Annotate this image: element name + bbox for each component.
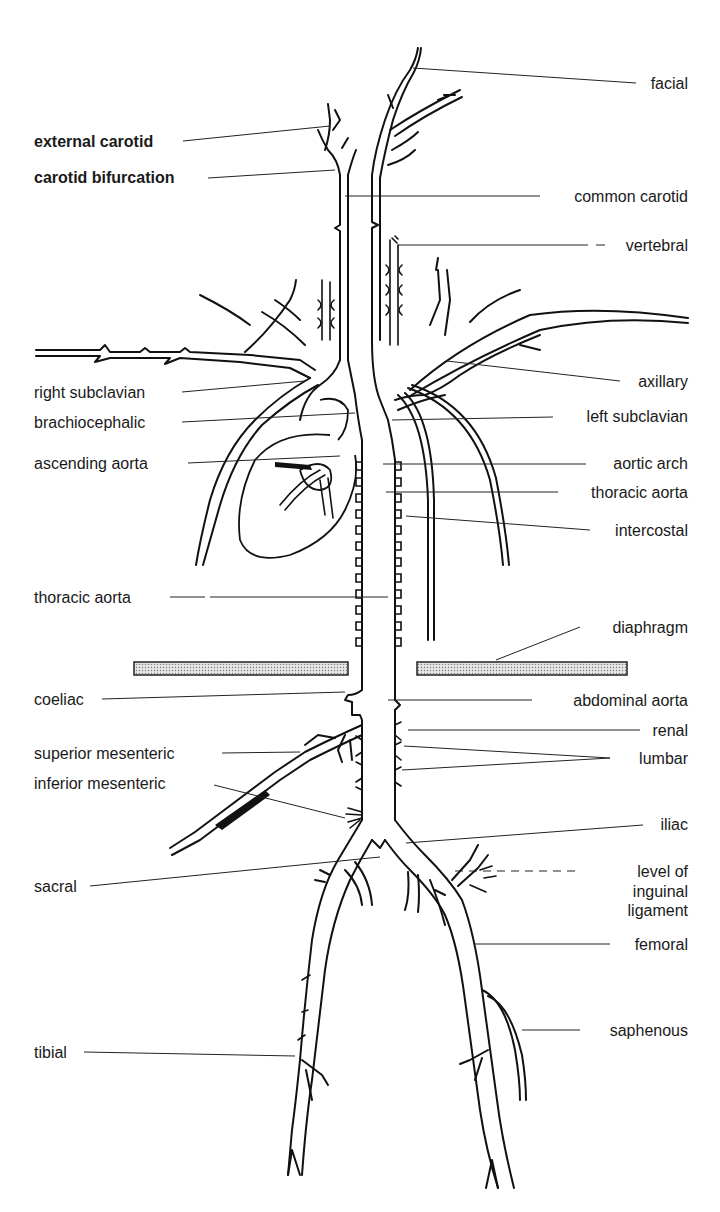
label-aortic-arch: aortic arch <box>613 455 688 472</box>
label-femoral: femoral <box>635 936 688 953</box>
label-coeliac: coeliac <box>34 691 84 708</box>
label-renal: renal <box>652 722 688 739</box>
labels-right: facial common carotid vertebral axillary… <box>573 75 688 1039</box>
label-common-carotid: common carotid <box>574 188 688 205</box>
label-right-subclavian: right subclavian <box>34 384 145 401</box>
label-tibial: tibial <box>34 1044 67 1061</box>
label-inferior-mesenteric: inferior mesenteric <box>34 775 166 792</box>
diaphragm-right <box>417 662 627 675</box>
label-left-subclavian: left subclavian <box>587 408 688 425</box>
label-carotid-bifurcation: carotid bifurcation <box>34 169 174 186</box>
label-iliac: iliac <box>660 816 688 833</box>
label-intercostal: intercostal <box>615 522 688 539</box>
arterial-system-diagram: external carotid carotid bifurcation rig… <box>0 0 720 1212</box>
label-sacral: sacral <box>34 878 77 895</box>
label-ascending-aorta: ascending aorta <box>34 455 148 472</box>
label-inguinal-line1: level of <box>637 863 688 880</box>
diaphragm-left <box>134 662 348 675</box>
label-thoracic-aorta-right: thoracic aorta <box>591 484 688 501</box>
labels-left: external carotid carotid bifurcation rig… <box>34 133 175 1061</box>
label-brachiocephalic: brachiocephalic <box>34 414 145 431</box>
label-saphenous: saphenous <box>610 1022 688 1039</box>
label-diaphragm: diaphragm <box>612 619 688 636</box>
label-external-carotid: external carotid <box>34 133 153 150</box>
label-thoracic-aorta-left: thoracic aorta <box>34 589 131 606</box>
label-vertebral: vertebral <box>626 237 688 254</box>
leader-lines <box>84 68 643 1056</box>
label-superior-mesenteric: superior mesenteric <box>34 745 175 762</box>
label-lumbar: lumbar <box>639 750 689 767</box>
label-abdominal-aorta: abdominal aorta <box>573 692 688 709</box>
label-axillary: axillary <box>638 373 688 390</box>
vessel-drawing <box>36 48 688 1188</box>
label-facial: facial <box>651 75 688 92</box>
label-inguinal-line2: inguinal <box>633 883 688 900</box>
label-inguinal-line3: ligament <box>628 902 689 919</box>
